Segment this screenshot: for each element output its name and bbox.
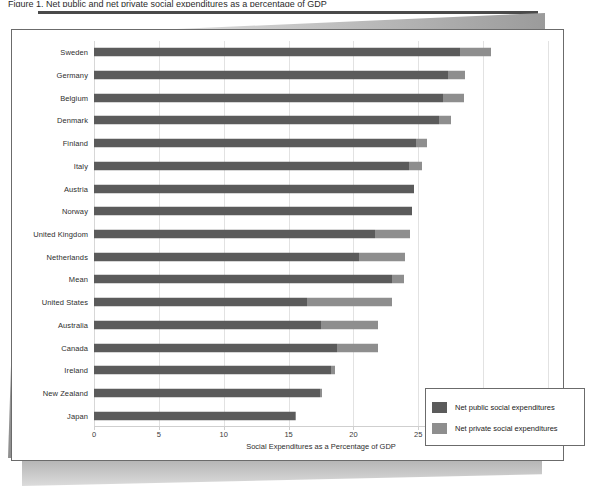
category-label: Belgium — [60, 93, 88, 102]
legend-swatch-net-private — [432, 423, 447, 434]
category-label: United States — [42, 298, 88, 307]
stacked-bar — [94, 320, 378, 329]
bar-row: Canada — [94, 336, 548, 359]
category-label: New Zealand — [43, 388, 88, 397]
bar-segment-net-private — [460, 48, 491, 57]
bar-segment-net-private — [439, 116, 451, 125]
bar-segment-net-private — [392, 275, 404, 284]
bar-segment-net-public — [94, 184, 414, 193]
bar-segment-net-public — [94, 207, 412, 216]
bar-segment-net-private — [443, 93, 464, 102]
bar-segment-net-private — [359, 252, 406, 261]
bar-segment-net-public — [94, 139, 416, 148]
chart-legend: Net public social expenditures Net priva… — [425, 388, 585, 446]
bar-segment-net-private — [337, 343, 379, 352]
plot-area: SwedenGermanyBelgiumDenmarkFinlandItalyA… — [94, 41, 548, 427]
bar-row: Netherlands — [94, 245, 548, 268]
bar-segment-net-public — [94, 229, 375, 238]
stacked-bar — [94, 388, 322, 397]
bar-segment-net-public — [94, 71, 448, 80]
category-label: Netherlands — [46, 252, 88, 261]
bar-row: Ireland — [94, 359, 548, 382]
bar-segment-net-private — [295, 411, 296, 420]
gridline-35 — [548, 41, 549, 427]
category-label: Denmark — [57, 116, 88, 125]
tick-label-25: 25 — [414, 430, 422, 439]
category-label: United Kingdom — [33, 229, 88, 238]
category-label: Germany — [56, 71, 88, 80]
page-shadow-bottom — [22, 460, 542, 486]
stacked-bar — [94, 275, 404, 284]
bar-segment-net-public — [94, 343, 337, 352]
category-label: Ireland — [64, 366, 88, 375]
tick-label-15: 15 — [284, 430, 292, 439]
bar-row: Australia — [94, 313, 548, 336]
bar-row: United Kingdom — [94, 223, 548, 246]
stacked-bar — [94, 229, 411, 238]
bar-rows: SwedenGermanyBelgiumDenmarkFinlandItalyA… — [94, 41, 548, 427]
bar-segment-net-public — [94, 161, 409, 170]
bar-segment-net-private — [307, 298, 393, 307]
category-label: Mean — [69, 275, 88, 284]
tick-label-20: 20 — [349, 430, 357, 439]
legend-item-net-private: Net private social expenditures — [432, 418, 578, 439]
bar-row: Finland — [94, 132, 548, 155]
header-rule — [38, 11, 538, 14]
bar-row: Denmark — [94, 109, 548, 132]
category-label: Norway — [62, 207, 88, 216]
stacked-bar — [94, 93, 464, 102]
bar-segment-net-public — [94, 320, 321, 329]
legend-item-net-public: Net public social expenditures — [432, 397, 578, 418]
bar-segment-net-private — [409, 161, 422, 170]
stacked-bar — [94, 161, 422, 170]
tick-label-0: 0 — [92, 430, 96, 439]
stacked-bar — [94, 411, 296, 420]
bar-segment-net-public — [94, 48, 460, 57]
stacked-bar — [94, 139, 427, 148]
bar-row: Sweden — [94, 41, 548, 64]
stacked-bar — [94, 252, 405, 261]
bar-segment-net-private — [448, 71, 465, 80]
legend-label-net-private: Net private social expenditures — [455, 424, 558, 433]
stacked-bar — [94, 298, 392, 307]
bar-segment-net-private — [331, 366, 335, 375]
tick-label-5: 5 — [157, 430, 161, 439]
bar-segment-net-public — [94, 298, 307, 307]
stacked-bar — [94, 366, 335, 375]
legend-label-net-public: Net public social expenditures — [455, 403, 555, 412]
category-label: Australia — [58, 320, 88, 329]
bar-segment-net-public — [94, 388, 320, 397]
bar-segment-net-public — [94, 275, 392, 284]
bar-row: United States — [94, 291, 548, 314]
stacked-bar — [94, 343, 378, 352]
category-label: Finland — [63, 139, 88, 148]
figure-caption-fragment: Figure 1. Net public and net private soc… — [8, 0, 568, 7]
bar-row: Italy — [94, 155, 548, 178]
bar-row: Austria — [94, 177, 548, 200]
bar-segment-net-private — [321, 320, 378, 329]
category-label: Sweden — [60, 48, 88, 57]
stacked-bar — [94, 48, 491, 57]
stacked-bar — [94, 207, 412, 216]
legend-swatch-net-public — [432, 402, 447, 413]
category-label: Austria — [64, 184, 88, 193]
stacked-bar — [94, 71, 465, 80]
bar-row: Norway — [94, 200, 548, 223]
bar-row: Belgium — [94, 86, 548, 109]
bar-segment-net-public — [94, 252, 359, 261]
bar-segment-net-public — [94, 411, 295, 420]
category-label: Italy — [74, 161, 88, 170]
category-label: Canada — [61, 343, 88, 352]
category-label: Japan — [67, 411, 88, 420]
bar-segment-net-public — [94, 366, 331, 375]
stacked-bar — [94, 116, 451, 125]
bar-segment-net-private — [416, 139, 428, 148]
bar-segment-net-private — [375, 229, 410, 238]
stacked-bar — [94, 184, 414, 193]
bar-segment-net-public — [94, 93, 443, 102]
tick-label-10: 10 — [220, 430, 228, 439]
bar-row: Mean — [94, 268, 548, 291]
bar-row: Germany — [94, 64, 548, 87]
chart-panel: SwedenGermanyBelgiumDenmarkFinlandItalyA… — [11, 29, 564, 461]
bar-segment-net-public — [94, 116, 439, 125]
